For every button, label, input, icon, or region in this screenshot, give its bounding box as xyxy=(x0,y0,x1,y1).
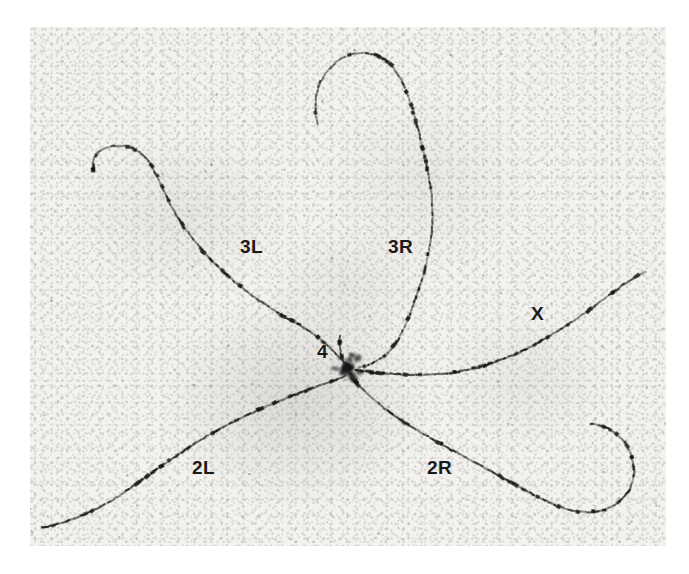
chromosome-band xyxy=(411,374,415,376)
chromosome-arm-2L xyxy=(41,374,347,528)
chromosome-band xyxy=(423,154,426,159)
chromosome-band xyxy=(92,163,95,169)
arm-label-x: X xyxy=(531,303,544,325)
chromosome-band xyxy=(417,287,421,292)
chromosome-band xyxy=(403,324,406,328)
chromosome-band xyxy=(414,118,418,124)
chromosome-band xyxy=(426,163,428,167)
chromosome-band xyxy=(508,355,513,358)
chromosome-band xyxy=(429,239,431,243)
chromosome-band xyxy=(432,208,433,212)
chromosome-band xyxy=(428,176,430,180)
chromosome-band xyxy=(118,146,123,147)
chromosome-band xyxy=(365,52,370,55)
chromosome-band xyxy=(428,181,431,186)
chromosome-band xyxy=(415,123,419,128)
chromosome-band xyxy=(356,52,360,54)
chromosome-band xyxy=(426,252,429,256)
chromosome-band xyxy=(315,98,316,101)
figure-canvas: 3L3RX42L2R xyxy=(0,0,689,574)
chromosome-band xyxy=(602,508,607,511)
arm-label-2r: 2R xyxy=(427,457,452,479)
chromosome-band xyxy=(629,455,634,460)
arm-label-4: 4 xyxy=(317,341,328,363)
chromosome-arm-X xyxy=(355,271,646,377)
chromosome-arm-3R xyxy=(314,52,434,369)
arm-label-3l: 3L xyxy=(240,236,263,258)
chromosome-band xyxy=(125,145,130,149)
arm-label-2l: 2L xyxy=(192,457,215,479)
chromosome-arm-layer xyxy=(41,52,646,528)
chromosome-band xyxy=(431,199,432,202)
chromocenter-blob xyxy=(331,366,340,371)
chromosome-band xyxy=(425,166,428,171)
chromosome-band xyxy=(114,146,118,148)
chromosome-band xyxy=(571,510,575,512)
chromosome-arm-2R xyxy=(351,378,636,514)
chromosome-spread xyxy=(30,27,666,546)
chromosome-band xyxy=(409,312,412,316)
chromosome-band xyxy=(441,373,446,375)
chromosome-band xyxy=(445,373,448,375)
chromosome-band xyxy=(564,508,568,510)
chromosome-band xyxy=(339,377,343,380)
chromosome-band xyxy=(431,193,432,198)
chromosome-band xyxy=(314,110,318,114)
chromosome-band xyxy=(369,53,373,55)
chromosome-band xyxy=(316,120,318,125)
chromosome-band xyxy=(632,474,635,478)
chromosome-band xyxy=(471,366,477,370)
chromosome-band xyxy=(423,269,427,275)
chromosome-band xyxy=(634,469,635,474)
chromosome-band xyxy=(71,517,76,520)
chromosome-band xyxy=(314,103,317,107)
chromosome-band xyxy=(579,511,583,512)
chromosome-band xyxy=(415,295,418,299)
arm-label-3r: 3R xyxy=(388,236,413,258)
chromosome-band xyxy=(583,511,587,512)
chromosome-band xyxy=(41,526,45,528)
emulsion-specks xyxy=(30,28,666,544)
chromosome-band xyxy=(58,522,62,525)
chromosome-band xyxy=(480,465,484,468)
chromosome-band xyxy=(329,379,335,384)
chromosome-band xyxy=(317,84,320,88)
chromosome-band xyxy=(487,468,492,472)
chromosome-band xyxy=(431,226,433,230)
chromosome-band xyxy=(429,186,432,190)
photographic-print: 3L3RX42L2R xyxy=(30,27,666,546)
chromosome-band xyxy=(452,449,457,453)
chromosome-band xyxy=(431,230,433,234)
chromosome-band xyxy=(632,463,635,467)
chromosome-band xyxy=(487,362,493,365)
chromosome-band xyxy=(419,144,425,151)
chromosome-arm-3L xyxy=(91,144,351,368)
chromosome-band xyxy=(428,248,429,251)
chromosome-band xyxy=(431,202,433,206)
chromosome-band xyxy=(590,423,594,425)
chromosome-band xyxy=(315,107,317,110)
